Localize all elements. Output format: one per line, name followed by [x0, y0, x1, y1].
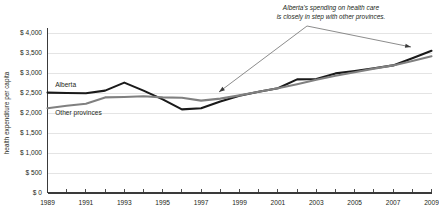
x-tick-label: 2001: [271, 199, 286, 206]
y-tick-label: $ 2,000: [20, 109, 42, 116]
y-tick-label: $ 3,500: [20, 49, 42, 56]
x-tick-label: 1999: [232, 199, 247, 206]
x-axis-tick-labels: 1989199119931995199719992001200320052007…: [40, 199, 439, 206]
series-label-alberta: Alberta: [55, 81, 76, 88]
x-tick-label: 2003: [309, 199, 324, 206]
arrow-right-line: [307, 26, 411, 47]
series-line-other-provinces: [48, 56, 432, 108]
health-expenditure-chart: $ 0$ 500$ 1,000$ 1,500$ 2,000$ 2,500$ 3,…: [0, 0, 439, 221]
y-axis-tick-labels: $ 0$ 500$ 1,000$ 1,500$ 2,000$ 2,500$ 3,…: [20, 29, 42, 196]
x-tick-label: 1989: [40, 199, 55, 206]
y-tick-label: $ 1,000: [20, 149, 42, 156]
arrow-left-line: [219, 26, 307, 92]
arrow-left-head: [219, 87, 225, 92]
x-tick-label: 2007: [386, 199, 401, 206]
series-label-other-provinces: Other provinces: [55, 109, 102, 117]
y-tick-label: $ 0: [33, 189, 42, 196]
series-inline-labels: AlbertaOther provinces: [55, 81, 102, 116]
data-series: [48, 51, 432, 110]
annotation-line-1: Alberta's spending on health care: [282, 4, 380, 12]
x-tick-label: 2009: [424, 199, 439, 206]
y-tick-label: $ 4,000: [20, 29, 42, 36]
y-tick-label: $ 1,500: [20, 129, 42, 136]
series-line-alberta: [48, 51, 432, 110]
x-tick-label: 1993: [117, 199, 132, 206]
x-tick-label: 1997: [194, 199, 209, 206]
x-tick-label: 2005: [347, 199, 362, 206]
arrow-right-head: [405, 44, 411, 48]
x-tick-label: 1991: [79, 199, 94, 206]
y-tick-label: $ 3,000: [20, 69, 42, 76]
y-tick-label: $ 2,500: [20, 89, 42, 96]
gridlines: [48, 33, 432, 173]
chart-canvas: $ 0$ 500$ 1,000$ 1,500$ 2,000$ 2,500$ 3,…: [0, 0, 439, 221]
x-tick-label: 1995: [155, 199, 170, 206]
annotation-line-2: is closely in step with other provinces.: [277, 13, 386, 21]
y-axis-title: health expenditure per capita: [3, 71, 11, 154]
x-axis-ticks: [48, 189, 432, 194]
y-tick-label: $ 500: [25, 169, 42, 176]
